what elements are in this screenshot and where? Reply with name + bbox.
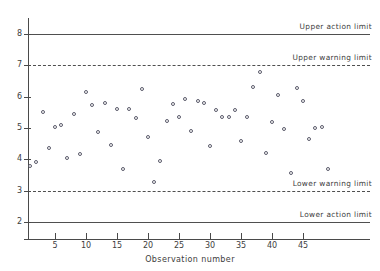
data-point — [47, 146, 51, 150]
data-point — [127, 107, 131, 111]
data-point — [28, 164, 32, 168]
data-point — [227, 115, 231, 119]
x-tick-label-5: 5 — [45, 241, 65, 250]
upper-action-limit-label: Upper action limit — [300, 22, 372, 31]
upper-action-limit-line — [28, 34, 370, 35]
data-point — [258, 70, 262, 74]
y-axis-spine — [28, 18, 29, 240]
x-tick-25 — [179, 233, 180, 239]
data-point — [34, 160, 38, 164]
data-point — [208, 144, 212, 148]
data-point — [109, 143, 113, 147]
data-point — [313, 126, 317, 130]
data-point — [53, 125, 57, 129]
x-tick-label-35: 35 — [231, 241, 251, 250]
x-tick-label-25: 25 — [169, 241, 189, 250]
data-point — [307, 137, 311, 141]
data-point — [134, 116, 138, 120]
y-tick-5 — [24, 128, 31, 129]
data-point — [189, 129, 193, 133]
data-point — [59, 123, 63, 127]
x-tick-40 — [272, 233, 273, 239]
y-tick-4 — [24, 159, 31, 160]
data-point — [270, 120, 274, 124]
x-tick-5 — [55, 233, 56, 239]
data-point — [84, 90, 88, 94]
data-point — [103, 101, 107, 105]
data-point — [90, 103, 94, 107]
lower-action-limit-line — [28, 222, 370, 223]
x-tick-label-45: 45 — [293, 241, 313, 250]
data-point — [115, 107, 119, 111]
y-tick-8 — [24, 34, 31, 35]
data-point — [295, 86, 299, 90]
lower-warning-limit-label: Lower warning limit — [293, 179, 372, 188]
y-tick-label-3: 3 — [8, 186, 22, 195]
data-point — [146, 135, 150, 139]
data-point — [72, 112, 76, 116]
data-point — [326, 167, 330, 171]
x-tick-label-30: 30 — [200, 241, 220, 250]
x-tick-label-15: 15 — [107, 241, 127, 250]
data-point — [289, 171, 293, 175]
y-tick-3 — [24, 191, 31, 192]
x-tick-30 — [210, 233, 211, 239]
data-point — [301, 99, 305, 103]
x-tick-10 — [86, 233, 87, 239]
x-tick-label-40: 40 — [262, 241, 282, 250]
data-point — [140, 87, 144, 91]
x-tick-35 — [241, 233, 242, 239]
y-tick-label-7: 7 — [8, 60, 22, 69]
data-point — [202, 101, 206, 105]
data-point — [276, 93, 280, 97]
data-point — [239, 139, 243, 143]
y-tick-label-2: 2 — [8, 217, 22, 226]
upper-warning-limit-label: Upper warning limit — [292, 53, 372, 62]
lower-warning-limit-line — [28, 191, 370, 192]
y-tick-label-6: 6 — [8, 92, 22, 101]
y-tick-label-8: 8 — [8, 29, 22, 38]
data-point — [121, 167, 125, 171]
data-point — [152, 180, 156, 184]
data-point — [171, 102, 175, 106]
data-point — [320, 125, 324, 129]
data-point — [264, 151, 268, 155]
data-point — [165, 119, 169, 123]
data-point — [251, 85, 255, 89]
x-tick-45 — [303, 233, 304, 239]
data-point — [245, 115, 249, 119]
data-point — [233, 108, 237, 112]
data-point — [196, 99, 200, 103]
lower-action-limit-label: Lower action limit — [300, 210, 372, 219]
x-tick-label-20: 20 — [138, 241, 158, 250]
x-tick-20 — [148, 233, 149, 239]
data-point — [183, 97, 187, 101]
data-point — [220, 115, 224, 119]
y-tick-2 — [24, 222, 31, 223]
y-tick-label-5: 5 — [8, 123, 22, 132]
control-chart: Upper action limitUpper warning limitLow… — [0, 0, 380, 271]
data-point — [41, 110, 45, 114]
x-axis-title: Observation number — [0, 255, 380, 264]
y-tick-label-4: 4 — [8, 154, 22, 163]
upper-warning-limit-line — [28, 65, 370, 66]
x-axis-spine — [24, 239, 370, 240]
data-point — [78, 152, 82, 156]
data-point — [214, 108, 218, 112]
y-tick-6 — [24, 97, 31, 98]
data-point — [282, 127, 286, 131]
data-point — [96, 130, 100, 134]
x-tick-label-10: 10 — [76, 241, 96, 250]
x-tick-15 — [117, 233, 118, 239]
data-point — [177, 115, 181, 119]
y-tick-7 — [24, 65, 31, 66]
data-point — [158, 159, 162, 163]
data-point — [65, 156, 69, 160]
